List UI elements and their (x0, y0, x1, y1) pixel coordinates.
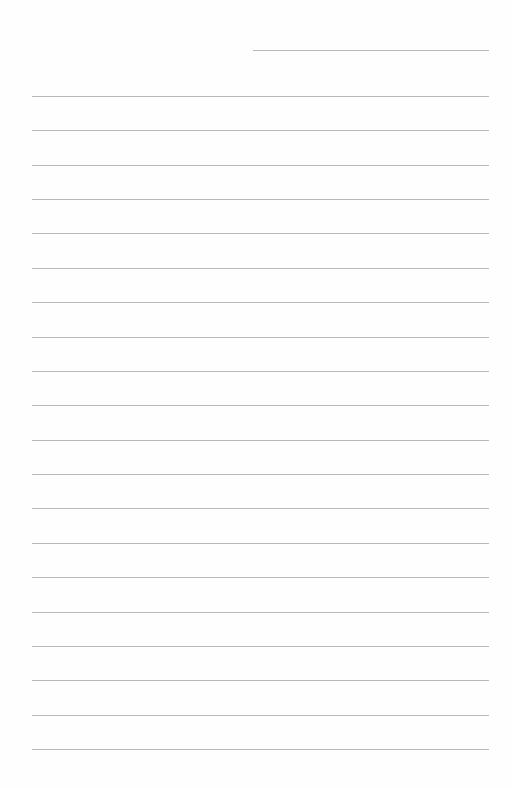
ruled-line (32, 474, 489, 475)
ruled-line (32, 577, 489, 578)
ruled-line (32, 543, 489, 544)
ruled-line (32, 337, 489, 338)
header-rule-line (253, 50, 489, 51)
ruled-line (32, 508, 489, 509)
ruled-line (32, 646, 489, 647)
ruled-line (32, 302, 489, 303)
ruled-line (32, 165, 489, 166)
ruled-line (32, 233, 489, 234)
ruled-line (32, 680, 489, 681)
ruled-line (32, 130, 489, 131)
ruled-line (32, 612, 489, 613)
ruled-line (32, 749, 489, 750)
ruled-line (32, 371, 489, 372)
ruled-line (32, 405, 489, 406)
lined-paper-page (0, 0, 512, 788)
ruled-line (32, 268, 489, 269)
ruled-line (32, 440, 489, 441)
ruled-line (32, 96, 489, 97)
ruled-line (32, 199, 489, 200)
ruled-line (32, 715, 489, 716)
